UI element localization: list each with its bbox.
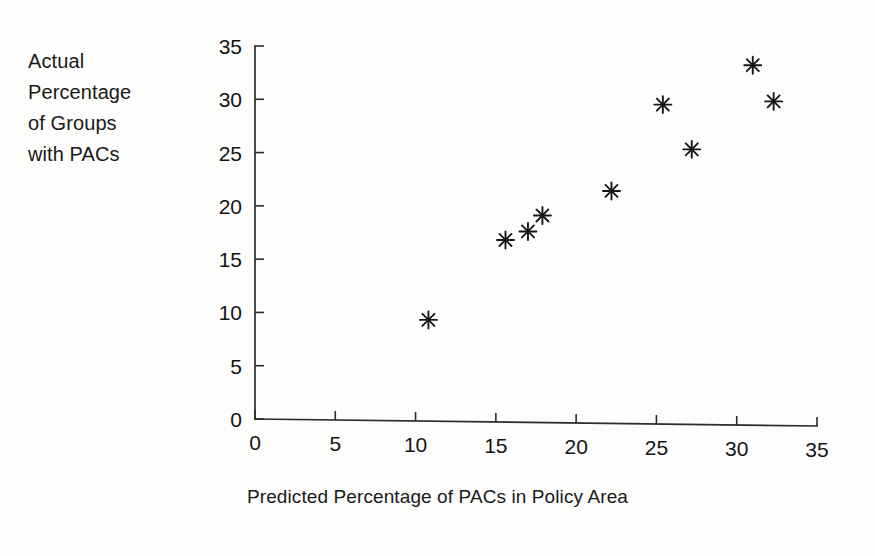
plot-area: 05101520253035 05101520253035 bbox=[0, 0, 875, 556]
data-point bbox=[683, 141, 700, 158]
data-point bbox=[519, 223, 536, 240]
scatter-plot-figure: Actual Percentage of Groups with PACs 05… bbox=[0, 0, 875, 556]
plot-canvas: 05101520253035 05101520253035 bbox=[0, 0, 875, 556]
tick-marks bbox=[255, 46, 817, 426]
data-point bbox=[744, 57, 761, 74]
y-tick-label-25: 25 bbox=[219, 142, 242, 165]
data-point bbox=[497, 231, 514, 248]
data-point bbox=[420, 311, 437, 328]
x-tick-label-10: 10 bbox=[404, 433, 427, 456]
x-tick-label-25: 25 bbox=[645, 436, 668, 459]
x-axis-title: Predicted Percentage of PACs in Policy A… bbox=[0, 486, 875, 508]
y-tick-label-20: 20 bbox=[219, 195, 242, 218]
y-tick-label-0: 0 bbox=[230, 408, 242, 431]
x-tick-label-5: 5 bbox=[329, 432, 341, 455]
y-tick-labels: 05101520253035 bbox=[219, 35, 242, 431]
data-point bbox=[654, 96, 671, 113]
x-tick-label-30: 30 bbox=[725, 437, 748, 460]
x-tick-label-35: 35 bbox=[805, 438, 828, 461]
data-point bbox=[534, 207, 551, 224]
x-tick-label-0: 0 bbox=[249, 431, 261, 454]
data-markers bbox=[420, 57, 782, 329]
y-tick-label-10: 10 bbox=[219, 301, 242, 324]
x-tick-label-15: 15 bbox=[484, 434, 507, 457]
y-tick-label-15: 15 bbox=[219, 248, 242, 271]
y-tick-label-30: 30 bbox=[219, 88, 242, 111]
data-point bbox=[603, 182, 620, 199]
y-tick-label-35: 35 bbox=[219, 35, 242, 58]
x-axis-line bbox=[255, 419, 817, 426]
data-point bbox=[765, 93, 782, 110]
axes bbox=[255, 46, 817, 426]
x-tick-label-20: 20 bbox=[564, 435, 587, 458]
y-tick-label-5: 5 bbox=[230, 355, 242, 378]
x-tick-labels: 05101520253035 bbox=[249, 431, 829, 461]
